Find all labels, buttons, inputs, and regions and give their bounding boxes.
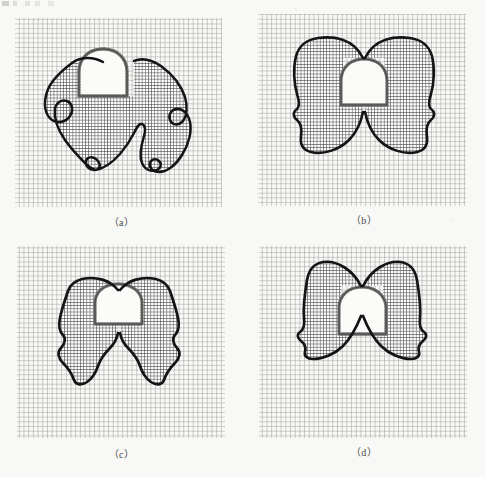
panel-d-caption: （d） <box>243 444 485 459</box>
mesh-base-c <box>17 246 225 438</box>
figure-root: （a） <box>0 0 485 477</box>
mesh-base-d <box>259 246 467 438</box>
panel-a: （a） <box>0 0 243 238</box>
panel-a-plot <box>0 0 243 216</box>
panel-b-plot <box>243 0 485 214</box>
panel-d: （d） <box>243 238 485 477</box>
panel-a-caption: （a） <box>0 214 243 229</box>
panel-c-caption: （c） <box>0 446 243 461</box>
panel-b: （b） <box>243 0 485 238</box>
panel-c-plot <box>0 238 243 448</box>
panel-d-plot <box>243 238 485 446</box>
panel-c: （c） <box>0 238 243 477</box>
panel-b-caption: （b） <box>243 212 485 227</box>
